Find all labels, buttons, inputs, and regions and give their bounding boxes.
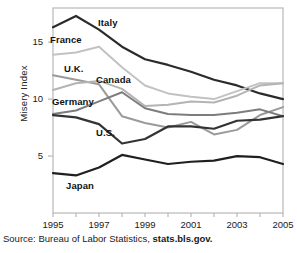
series-label-japan: Japan: [66, 180, 94, 191]
x-tick-label-1995: 1995: [36, 219, 70, 230]
x-tick-label-1997: 1997: [82, 219, 116, 230]
source-note: Source: Bureau of Labor Statistics, stat…: [3, 233, 212, 244]
series-label-italy: Italy: [98, 17, 118, 28]
series-label-germany: Germany: [52, 96, 94, 107]
x-tick-label-2005: 2005: [266, 219, 297, 230]
series-label-france: France: [50, 34, 82, 45]
y-tick-label-10: 10: [23, 93, 43, 104]
chart-plot-area: [0, 0, 297, 253]
source-prefix: Source: Bureau of Labor Statistics,: [3, 233, 150, 244]
series-label-uk: U.K.: [64, 63, 83, 74]
x-tick-label-2001: 2001: [174, 219, 208, 230]
x-tick-label-1999: 1999: [128, 219, 162, 230]
source-url: stats.bls.gov.: [152, 233, 212, 244]
series-label-canada: Canada: [96, 74, 131, 85]
y-tick-label-15: 15: [23, 36, 43, 47]
series-label-us: U.S.: [96, 127, 115, 138]
y-tick-label-5: 5: [23, 150, 43, 161]
x-tick-label-2003: 2003: [220, 219, 254, 230]
misery-index-chart-figure: Misery Index 15 10 5 1995 1997 1999 2001…: [0, 0, 297, 253]
